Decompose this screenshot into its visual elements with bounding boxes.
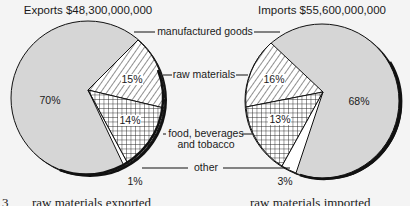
imports-pct-food: 13% [269,113,290,125]
exports-pie: Exports $48,300,000,000 70% 15% 14% 1% [11,4,167,187]
trade-pie-charts: Exports $48,300,000,000 70% 15% 14% 1% I… [0,0,410,206]
exports-pct-manufactured: 70% [39,94,60,106]
caption-left: raw materials exported [32,195,152,206]
exports-pct-other: 1% [127,175,142,187]
legend-manufactured: manufactured goods [157,25,253,37]
imports-pct-raw: 16% [263,73,284,85]
imports-pct-other: 3% [277,175,292,187]
exports-pct-food-box: 14% [118,114,141,126]
exports-pct-raw: 15% [121,73,142,85]
caption-number: 3 [2,195,9,206]
caption-right: raw materials imported [250,195,371,206]
exports-title: Exports $48,300,000,000 [24,4,153,16]
imports-pct-raw-box: 16% [263,73,285,85]
imports-pie: Imports $55,600,000,000 68% 16% 13% 3% [245,4,402,187]
exports-pct-food: 14% [119,114,140,126]
exports-pct-raw-box: 15% [121,73,143,85]
imports-title: Imports $55,600,000,000 [258,4,386,16]
imports-pct-manufactured: 68% [348,95,369,107]
imports-pct-food-box: 13% [268,113,291,125]
legend-other: other [194,161,218,173]
legend-food-line2: and tobacco [177,138,234,150]
legend-raw: raw materials [173,68,235,80]
captions: 3 raw materials exported raw materials i… [2,195,371,206]
